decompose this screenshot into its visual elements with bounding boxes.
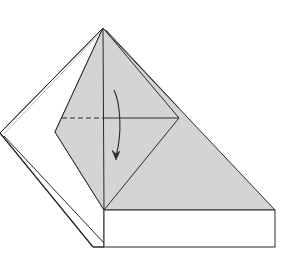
white-box-base	[104, 210, 275, 247]
origami-diagram: Origami fold step: valley fold top flap …	[0, 0, 295, 258]
diagram-svg	[0, 0, 295, 258]
